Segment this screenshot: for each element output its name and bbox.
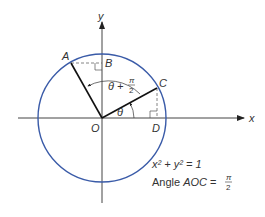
eq-pi-numerator: π xyxy=(226,173,232,182)
circle-equation: x² + y² = 1 xyxy=(151,158,202,170)
angle-equals: = xyxy=(207,176,216,188)
theta-plus-label: θ + xyxy=(108,80,124,92)
angle-prefix: Angle xyxy=(152,176,183,188)
pi-denominator: 2 xyxy=(129,86,134,95)
eq-pi-denominator: 2 xyxy=(226,183,231,192)
pi-numerator: π xyxy=(129,76,135,85)
point-B-label: B xyxy=(105,57,112,69)
segment-OA xyxy=(71,63,102,118)
y-axis-label: y xyxy=(97,10,105,22)
point-O-label: O xyxy=(91,122,100,134)
theta-label: θ xyxy=(117,106,123,118)
x-axis-label: x xyxy=(248,112,255,124)
point-D-label: D xyxy=(152,122,160,134)
angle-name: AOC xyxy=(182,176,207,188)
right-angle-D xyxy=(150,111,157,118)
theta-arc xyxy=(130,103,134,118)
angle-equation: Angle AOC = xyxy=(152,176,217,188)
point-C-label: C xyxy=(159,77,167,89)
unit-circle-diagram: y x A B C D O θ θ + π 2 x² + y² = 1 Angl… xyxy=(0,0,265,217)
point-A-label: A xyxy=(61,50,69,62)
right-angle-B xyxy=(95,63,102,70)
